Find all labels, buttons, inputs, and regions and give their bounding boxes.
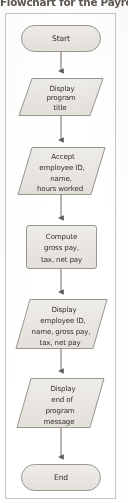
node-display-title: Display program title [19, 79, 103, 116]
display-end-message-line-3: program [45, 406, 74, 415]
node-display-end-message: Display end of program message [17, 379, 104, 428]
display-results-line-2: employee ID, [40, 316, 85, 325]
accept-input-line-2: employee ID, [39, 163, 84, 172]
display-title-line-1: Display [49, 84, 74, 93]
flowchart-canvas: Start Display program title Accept emplo… [6, 14, 117, 500]
display-results-line-3: name, gross pay, [32, 327, 91, 336]
flowchart-figure-page: Flowchart for the Payroll Pro Start [0, 0, 128, 503]
display-title-line-2: program [46, 93, 75, 102]
display-title-line-3: title [53, 103, 66, 112]
compute-pay-line-1: Compute [46, 232, 77, 241]
accept-input-line-3: name, [50, 174, 72, 183]
display-end-message-line-1: Display [50, 384, 75, 393]
figure-frame: Start Display program title Accept emplo… [5, 13, 116, 499]
compute-pay-line-2: gross pay, [44, 243, 79, 252]
node-start: Start [22, 26, 101, 52]
node-display-results: Display employee ID, name, gross pay, ta… [16, 300, 107, 349]
accept-input-line-1: Accept [51, 152, 75, 161]
start-label: Start [52, 34, 70, 43]
display-end-message-line-4: message [44, 417, 75, 426]
display-results-line-1: Display [51, 305, 76, 314]
node-compute-pay: Compute gross pay, tax, net pay [27, 226, 97, 269]
node-accept-input: Accept employee ID, name, hours worked [18, 148, 105, 195]
node-end: End [22, 465, 101, 491]
end-label: End [54, 473, 68, 482]
compute-pay-line-3: tax, net pay [41, 255, 82, 264]
figure-caption: Flowchart for the Payroll Pro [0, 0, 128, 9]
display-end-message-line-2: end of [51, 395, 73, 404]
display-results-line-4: tax, net pay [40, 338, 81, 347]
accept-input-line-4: hours worked [37, 184, 83, 193]
